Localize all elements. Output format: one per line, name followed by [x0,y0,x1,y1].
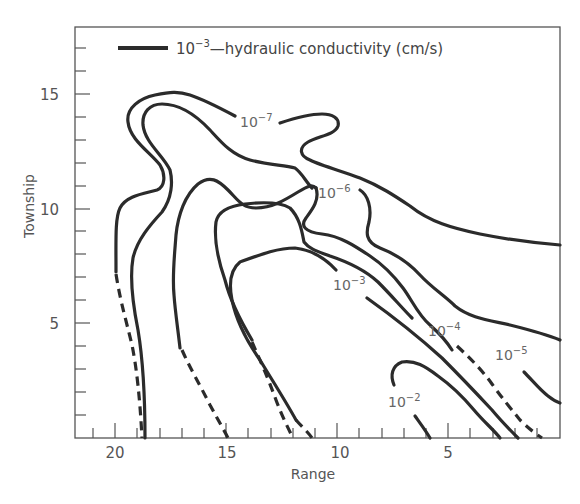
x-tick-15: 15 [217,444,236,462]
legend: 10−3—hydraulic conductivity (cm/s) [118,38,443,58]
y-tick-15: 15 [40,86,59,104]
y-tick-10: 10 [40,201,59,219]
contour-label-1e-5: 10−5 [495,345,528,363]
x-axis-ticks [93,423,537,438]
contour-label-1e-2: 10−2 [388,392,421,410]
contour-label-1e-7: 10−7 [240,112,273,130]
contour-1e-5 [173,179,560,438]
contour-label-1e-4: 10−4 [428,321,461,339]
legend-text: 10−3—hydraulic conductivity (cm/s) [176,38,443,58]
contour-1e-6 [132,104,560,438]
y-tick-5: 5 [49,315,59,333]
y-axis-ticks [75,48,90,415]
contour-label-1e-6: 10−6 [318,183,351,201]
x-tick-20: 20 [105,444,124,462]
contour-chart: 15 10 5 20 15 10 5 Range Township 10−3—h… [0,0,580,504]
x-tick-10: 10 [330,444,349,462]
x-tick-5: 5 [443,444,453,462]
x-axis-label: Range [291,466,335,482]
contour-label-1e-3: 10−3 [333,275,366,293]
y-axis-label: Township [21,174,37,239]
contour-1e-7 [116,92,560,438]
